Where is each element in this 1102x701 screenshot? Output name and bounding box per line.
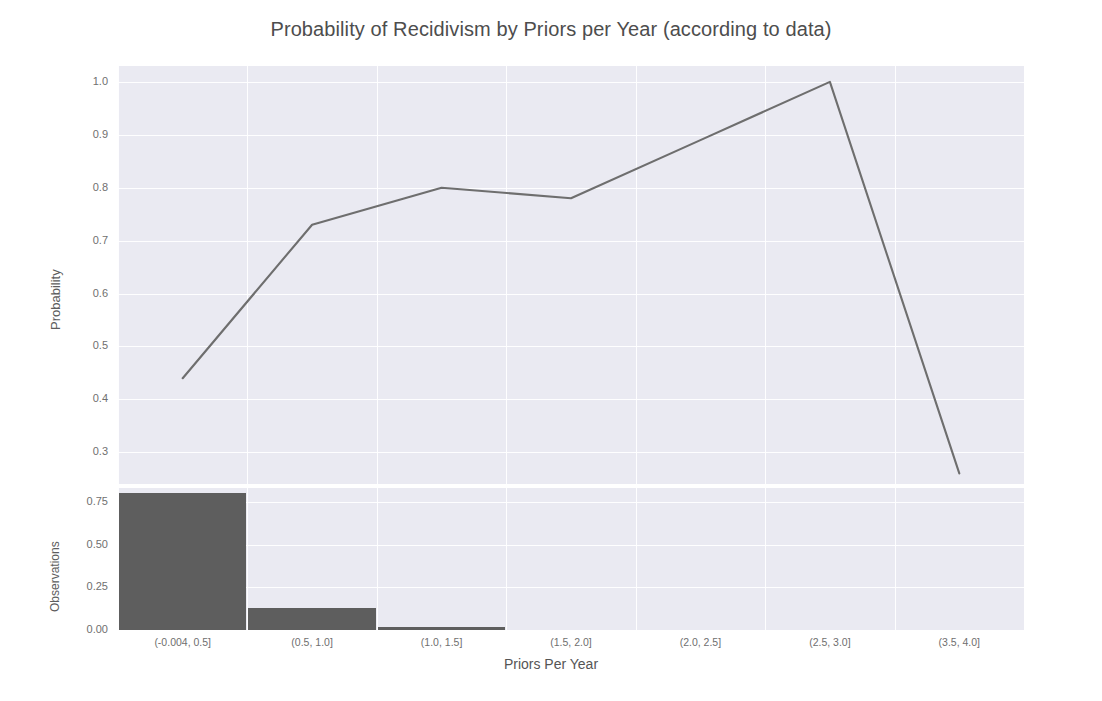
y-tick-label: 1.0 (62, 75, 108, 87)
vertical-gridline (377, 488, 378, 630)
y-tick-label: 0.3 (62, 445, 108, 457)
y-tick-label: 0.4 (62, 392, 108, 404)
x-tick-label: (3.5, 4.0] (939, 636, 980, 648)
gridline (118, 502, 1024, 503)
bar (378, 627, 505, 630)
y-tick-label: 0.9 (62, 128, 108, 140)
y-tick-label: 0.6 (62, 287, 108, 299)
y-tick-label: 0.7 (62, 234, 108, 246)
y-tick-label: 0.8 (62, 181, 108, 193)
vertical-gridline (895, 488, 896, 630)
vertical-gridline (765, 488, 766, 630)
gridline (118, 587, 1024, 588)
y-axis-label-observations: Observations (48, 541, 62, 612)
y-tick-label: 0.00 (62, 623, 108, 635)
bar (119, 493, 246, 630)
y-tick-label: 0.50 (62, 538, 108, 550)
line-chart-panel (118, 66, 1024, 484)
y-tick-label: 0.25 (62, 580, 108, 592)
x-axis-label-priors-per-year: Priors Per Year (0, 656, 1102, 672)
observations-bar-panel (118, 488, 1024, 630)
bar (248, 608, 375, 630)
chart-figure: Probability of Recidivism by Priors per … (0, 0, 1102, 701)
chart-title: Probability of Recidivism by Priors per … (0, 18, 1102, 41)
gridline (118, 545, 1024, 546)
y-tick-label: 0.5 (62, 339, 108, 351)
y-tick-label: 0.75 (62, 495, 108, 507)
x-tick-label: (1.5, 2.0] (550, 636, 591, 648)
probability-line-series (118, 66, 1024, 484)
x-tick-label: (2.0, 2.5] (680, 636, 721, 648)
x-tick-label: (0.5, 1.0] (291, 636, 332, 648)
vertical-gridline (506, 488, 507, 630)
x-tick-label: (-0.004, 0.5] (154, 636, 211, 648)
y-axis-label-probability: Probability (48, 269, 63, 330)
x-tick-label: (2.5, 3.0] (809, 636, 850, 648)
vertical-gridline (636, 488, 637, 630)
x-tick-label: (1.0, 1.5] (421, 636, 462, 648)
